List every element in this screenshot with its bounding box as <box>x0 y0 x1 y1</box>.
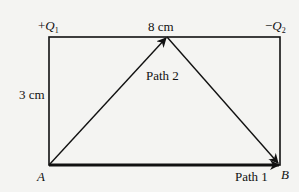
path1-label: Path 1 <box>235 170 268 183</box>
point-a-label: A <box>37 170 45 183</box>
charge-q1-symbol: Q <box>45 18 54 33</box>
rectangle-boundary <box>49 37 280 165</box>
path2-down-arrow <box>167 37 278 163</box>
charge-q1-subscript: 1 <box>55 26 59 35</box>
charge-q2-symbol: Q <box>272 18 281 33</box>
path2-label: Path 2 <box>146 69 179 82</box>
charge-q2-label: −Q2 <box>265 19 286 35</box>
path2-up-arrow <box>49 38 166 165</box>
point-b-label: B <box>281 168 289 181</box>
charge-q2-subscript: 2 <box>282 26 286 35</box>
height-dimension-label: 3 cm <box>19 88 45 101</box>
width-dimension-label: 8 cm <box>148 20 174 33</box>
charge-q1-label: +Q1 <box>38 19 59 35</box>
